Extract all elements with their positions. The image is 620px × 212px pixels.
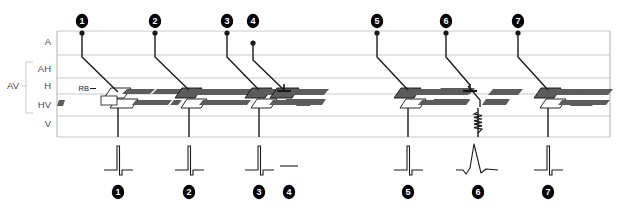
ladder-diagram-svg: AAHHHVVAVRBLB12345671234567 <box>0 0 620 212</box>
bundle-bar-lower-6 <box>430 99 470 105</box>
axis-label-HV: HV <box>38 99 52 110</box>
rb-fascicle-a-1 <box>122 89 155 94</box>
lb-fascicle-a-1 <box>132 100 172 105</box>
beat-marker-top-1-text: 1 <box>79 16 84 26</box>
diagram-canvas: AAHHHVVAVRBLB12345671234567 <box>0 0 620 212</box>
beat-marker-bottom-6: 6 <box>472 185 484 199</box>
bundle-bar-lower2-6 <box>482 99 510 105</box>
fascicle-overflow-c <box>575 89 606 95</box>
bundle-bar-lower-2 <box>199 100 251 105</box>
fascicle-overflow-d <box>570 100 596 106</box>
beat-marker-bottom-7-text: 7 <box>545 187 550 197</box>
bundle-bar-upper-2 <box>193 89 254 95</box>
bundle-label-RB: RB <box>79 84 89 93</box>
beat-marker-top-3-text: 3 <box>224 16 229 26</box>
beat-marker-top-5-text: 5 <box>374 16 379 26</box>
beat-marker-top-2: 2 <box>149 14 161 28</box>
beat-marker-top-4: 4 <box>247 14 259 28</box>
bundle-bar-upper2-6 <box>488 89 523 95</box>
beat-marker-bottom-4-text: 4 <box>286 187 291 197</box>
lb-callout-box <box>101 96 117 105</box>
beat-marker-top-4-text: 4 <box>250 16 255 26</box>
beat-marker-top-7-text: 7 <box>515 16 520 26</box>
beat-marker-bottom-4: 4 <box>283 185 295 199</box>
beat-marker-bottom-5-text: 5 <box>405 187 410 197</box>
beat-marker-bottom-3-text: 3 <box>256 187 261 197</box>
beat-marker-top-3: 3 <box>221 14 233 28</box>
beat-marker-bottom-1: 1 <box>112 185 124 199</box>
axis-label-AV: AV <box>7 80 20 91</box>
beat-marker-bottom-1-text: 1 <box>115 187 120 197</box>
ladder-diagram-figure: AAHHHVVAVRBLB12345671234567 <box>0 0 620 212</box>
axis-label-AH: AH <box>38 63 51 74</box>
beat-marker-bottom-5: 5 <box>402 185 414 199</box>
beat-marker-top-7: 7 <box>512 14 524 28</box>
beat-marker-bottom-2-text: 2 <box>186 187 191 197</box>
beat-marker-top-5: 5 <box>371 14 383 28</box>
beat-marker-bottom-2: 2 <box>183 185 195 199</box>
beat-marker-bottom-3: 3 <box>253 185 265 199</box>
beat-marker-bottom-6-text: 6 <box>475 187 480 197</box>
axis-label-H: H <box>44 80 51 91</box>
beat-marker-top-2-text: 2 <box>152 16 157 26</box>
beat-marker-top-6-text: 6 <box>443 16 448 26</box>
beat-marker-bottom-7: 7 <box>542 185 554 199</box>
axis-label-A: A <box>45 36 52 47</box>
beat-marker-top-6: 6 <box>440 14 452 28</box>
beat-marker-top-1: 1 <box>76 14 88 28</box>
axis-label-V: V <box>45 118 52 129</box>
